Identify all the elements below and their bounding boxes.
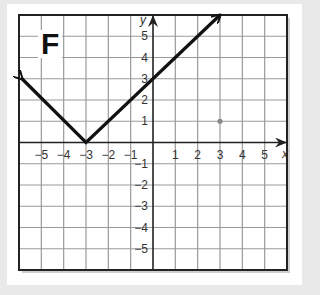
panel-label: F [38,30,62,58]
x-tick-label: 2 [194,148,201,162]
y-tick-label: −4 [134,221,148,235]
x-tick-label: 5 [261,148,268,162]
x-tick-label: −3 [79,148,93,162]
x-tick-label: 1 [172,148,179,162]
y-tick-label: 4 [141,51,148,65]
y-tick-label: 2 [141,93,148,107]
x-axis-label: x [281,147,289,161]
y-tick-label: 5 [141,29,148,43]
x-tick-label: −5 [34,148,48,162]
stray-point [217,119,222,124]
x-tick-label: −4 [57,148,71,162]
y-tick-label: −5 [134,242,148,256]
y-axis-label: y [139,13,147,27]
x-tick-label: −2 [101,148,115,162]
y-tick-label: −2 [134,178,148,192]
x-tick-label: 4 [239,148,246,162]
x-tick-label: 3 [217,148,224,162]
y-tick-label: −3 [134,199,148,213]
y-tick-label: −1 [134,157,148,171]
y-tick-label: 1 [141,114,148,128]
